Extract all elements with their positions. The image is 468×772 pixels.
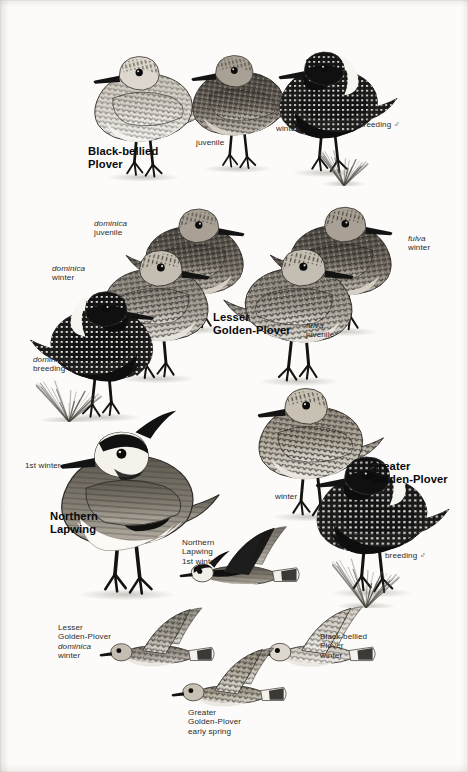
caption-line: winter [320, 651, 342, 660]
species-name-line: Northern [50, 510, 98, 522]
caption-line: winter [275, 492, 297, 501]
caption-line: breeding ♂ [33, 364, 74, 373]
caption-ggpl-winter: winter [275, 492, 297, 501]
species-name-line: Greater [370, 460, 411, 472]
caption-line: Northern [182, 538, 214, 547]
species-name-line: Golden-Plover [213, 324, 291, 336]
caption-line: breeding ♂ [359, 120, 400, 129]
caption-bbpl-juvenile: juvenile [196, 138, 224, 147]
caption-line: Lapwing [182, 547, 213, 556]
caption-line: winter [52, 273, 74, 282]
caption-line: breeding ♂ [385, 551, 426, 560]
caption-line: dominica [33, 355, 66, 364]
caption-line: Lesser [58, 623, 83, 632]
caption-nola-flight: NorthernLapwing1st winter [182, 538, 218, 566]
species-name-northern-lapwing: NorthernLapwing [50, 510, 98, 537]
species-name-line: Lapwing [50, 523, 96, 535]
caption-line: dominica [52, 264, 85, 273]
caption-bbpl-winter: winter [276, 124, 298, 133]
ground-tuft [330, 558, 402, 612]
field-guide-plate: juvenilewinterbreeding ♂dominicajuvenile… [0, 0, 468, 772]
caption-line: juvenile [306, 330, 334, 339]
caption-line: Golden-Plover [188, 717, 241, 726]
caption-line: juvenile [94, 228, 122, 237]
ground-tuft [318, 150, 370, 190]
caption-line: Black-bellied [320, 632, 367, 641]
caption-line: early spring [188, 727, 231, 736]
caption-line: juvenile [196, 138, 224, 147]
caption-ggpl-breeding-male: breeding ♂ [385, 551, 426, 560]
caption-line: fulva [408, 234, 426, 243]
caption-lgpl-dominica-juv: dominicajuvenile [94, 219, 127, 238]
species-name-line: Golden-Plover [370, 473, 448, 485]
caption-ggpl-flight: GreaterGolden-Ploverearly spring [188, 708, 241, 736]
caption-line: Plover [320, 641, 344, 650]
caption-lgpl-dominica-winter: dominicawinter [52, 264, 85, 283]
species-name-black-bellied-plover: Black-belliedPlover [88, 145, 158, 172]
caption-line: Golden-Plover [58, 632, 111, 641]
caption-lgpl-dominica-breed: dominicabreeding ♂ [33, 355, 74, 374]
species-name-lesser-golden-plover: LesserGolden-Plover [213, 311, 291, 338]
caption-lgpl-flight: LesserGolden-Ploverdominicawinter [58, 623, 111, 661]
caption-line: winter [408, 243, 430, 252]
caption-line: 1st winter [182, 557, 218, 566]
caption-line: 1st winter [25, 461, 61, 470]
species-name-greater-golden-plover: GreaterGolden-Plover [370, 460, 448, 487]
caption-line: fulva [306, 321, 324, 330]
caption-nola-1st-winter: 1st winter [25, 461, 61, 470]
species-name-line: Lesser [213, 311, 250, 323]
caption-line: dominica [94, 219, 127, 228]
caption-lgpl-fulva-winter: fulvawinter [408, 234, 430, 253]
caption-bbpl-flight: Black-belliedPloverwinter [320, 632, 367, 660]
caption-line: winter [58, 651, 80, 660]
caption-lgpl-fulva-juvenile: fulvajuvenile [306, 321, 334, 340]
species-name-line: Black-bellied [88, 145, 158, 157]
caption-line: Greater [188, 708, 216, 717]
species-name-line: Plover [88, 158, 123, 170]
caption-bbpl-breeding-male: breeding ♂ [359, 120, 400, 129]
ground-tuft [34, 380, 104, 426]
caption-line: dominica [58, 642, 91, 651]
caption-line: winter [276, 124, 298, 133]
